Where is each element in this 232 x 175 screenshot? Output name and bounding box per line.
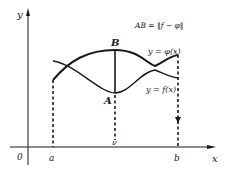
x-axis-label: x: [212, 153, 218, 164]
phi-curve-label: y = φ(x): [147, 47, 181, 56]
tick-a-label: a: [49, 153, 54, 163]
f-curve-label: y = f(x): [145, 85, 176, 94]
y-axis-arrow-icon: [26, 8, 30, 16]
guide-b-arrow-icon: [175, 117, 181, 123]
origin-label: 0: [17, 152, 23, 162]
x-axis-arrow-icon: [207, 145, 216, 149]
formula-label: AB = ‖f − φ‖: [134, 21, 184, 30]
norm-diagram: y x 0 a b ν B A AB = ‖f − φ‖ y = φ(x) y …: [0, 0, 232, 175]
tick-mid-label: ν: [112, 138, 117, 147]
y-axis-label: y: [16, 9, 23, 20]
point-b-label: B: [110, 37, 119, 48]
tick-b-label: b: [174, 153, 180, 163]
point-a-label: A: [103, 95, 112, 106]
